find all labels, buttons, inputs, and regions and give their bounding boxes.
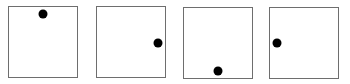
dot-right bbox=[154, 39, 163, 48]
dot-left bbox=[273, 39, 282, 48]
dot-top bbox=[39, 10, 48, 19]
dot-bottom bbox=[214, 67, 223, 76]
